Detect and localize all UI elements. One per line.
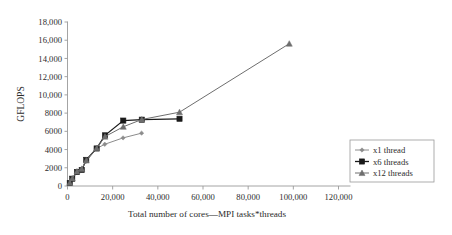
data-point-marker (121, 118, 126, 123)
data-point-marker (177, 109, 183, 115)
data-point-marker (139, 131, 143, 135)
y-axis-tick-label: 12,000 (38, 72, 62, 82)
data-point-marker (286, 41, 292, 47)
y-axis-tick-label: 10,000 (38, 90, 62, 100)
data-point-marker (103, 142, 107, 146)
x-axis-tick-label: 20,000 (101, 192, 125, 202)
series-line (70, 133, 142, 183)
chart-canvas: 0200040006000800010,00012,00014,00016,00… (0, 0, 452, 235)
y-axis-tick-label: 2000 (45, 163, 62, 173)
y-axis-tick-label: 4000 (45, 145, 62, 155)
legend-box: x1 threadx6 threadsx12 threads (350, 140, 434, 182)
series-layer (67, 41, 293, 186)
chart-figure: 0200040006000800010,00012,00014,00016,00… (0, 0, 452, 235)
y-axis-tick-label: 8000 (45, 108, 62, 118)
x-axis-tick-label: 0 (65, 192, 69, 202)
y-axis-tick-label: 6000 (45, 126, 62, 136)
legend-label: x1 thread (373, 145, 406, 155)
data-series (67, 41, 293, 186)
y-axis-tick-label: 14,000 (38, 54, 62, 64)
y-axis-tick-label: 16,000 (38, 35, 62, 45)
axis-layer: 0200040006000800010,00012,00014,00016,00… (38, 17, 352, 201)
data-point-marker (121, 136, 125, 140)
data-point-marker (177, 116, 182, 121)
x-axis-tick-label: 80,000 (236, 192, 260, 202)
y-axis-tick-label: 18,000 (38, 17, 62, 27)
legend-label: x12 threads (373, 168, 414, 178)
data-point-marker (120, 124, 126, 130)
y-axis-title: GFLOPS (16, 86, 26, 121)
y-axis-tick-label: 0 (58, 181, 62, 191)
x-axis-tick-label: 60,000 (191, 192, 215, 202)
data-point-marker (359, 159, 364, 164)
x-axis-tick-label: 40,000 (146, 192, 170, 202)
x-axis-tick-label: 120,000 (325, 192, 353, 202)
x-axis-title: Total number of cores—MPI tasks*threads (128, 209, 286, 219)
legend-label: x6 threads (373, 157, 409, 167)
x-axis-tick-label: 100,000 (279, 192, 307, 202)
